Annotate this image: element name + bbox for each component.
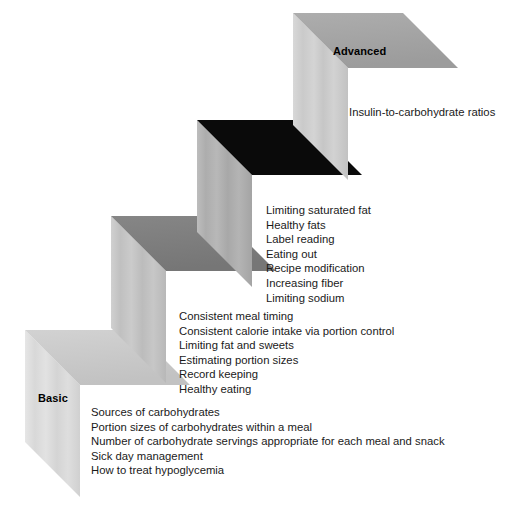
topic-item: Record keeping [179,367,394,382]
step-label-advanced: Advanced [333,45,386,57]
topic-item: Limiting saturated fat [266,203,371,218]
topic-item: Increasing fiber [266,276,371,291]
topic-item: Sources of carbohydrates [91,405,445,420]
topic-item: Limiting sodium [266,291,371,306]
topic-item: Sick day management [91,449,445,464]
diagram-canvas: Advanced Basic Insulin-to-carbohydrate r… [0,0,515,520]
topic-item: Healthy fats [266,218,371,233]
topic-item: Eating out [266,247,371,262]
topic-item: Portion sizes of carbohydrates within a … [91,420,445,435]
topic-item: Consistent meal timing [179,309,394,324]
topic-list-intermediate-advanced: Limiting saturated fat Healthy fats Labe… [266,203,371,305]
topic-list-advanced: Insulin-to-carbohydrate ratios [349,105,495,120]
topic-item: Number of carbohydrate servings appropri… [91,434,445,449]
topic-item: Limiting fat and sweets [179,338,394,353]
topic-item: Insulin-to-carbohydrate ratios [349,105,495,120]
topic-item: Consistent calorie intake via portion co… [179,324,394,339]
topic-item: Label reading [266,232,371,247]
topic-item: Estimating portion sizes [179,353,394,368]
topic-list-intermediate: Consistent meal timing Consistent calori… [179,309,394,397]
topic-item: Recipe modification [266,261,371,276]
topic-item: How to treat hypoglycemia [91,463,445,478]
topic-list-basic: Sources of carbohydrates Portion sizes o… [91,405,445,478]
topic-item: Healthy eating [179,382,394,397]
step-label-basic: Basic [38,392,68,404]
